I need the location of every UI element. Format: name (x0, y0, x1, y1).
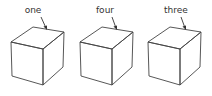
cube-side-face (112, 32, 133, 85)
cube-three: three (148, 5, 201, 85)
cube-front-face (148, 42, 180, 85)
cube-label: three (164, 5, 188, 15)
cubes-diagram: one four three (0, 0, 212, 96)
cube-side-face (43, 32, 64, 85)
cube-front-face (80, 42, 112, 85)
cube-label: one (25, 5, 42, 15)
cube-four: four (80, 5, 133, 85)
cube-side-face (180, 32, 201, 85)
cube-label: four (96, 5, 114, 15)
figure: one four three (0, 0, 212, 96)
cube-front-face (11, 42, 43, 85)
cube-one: one (11, 5, 64, 85)
